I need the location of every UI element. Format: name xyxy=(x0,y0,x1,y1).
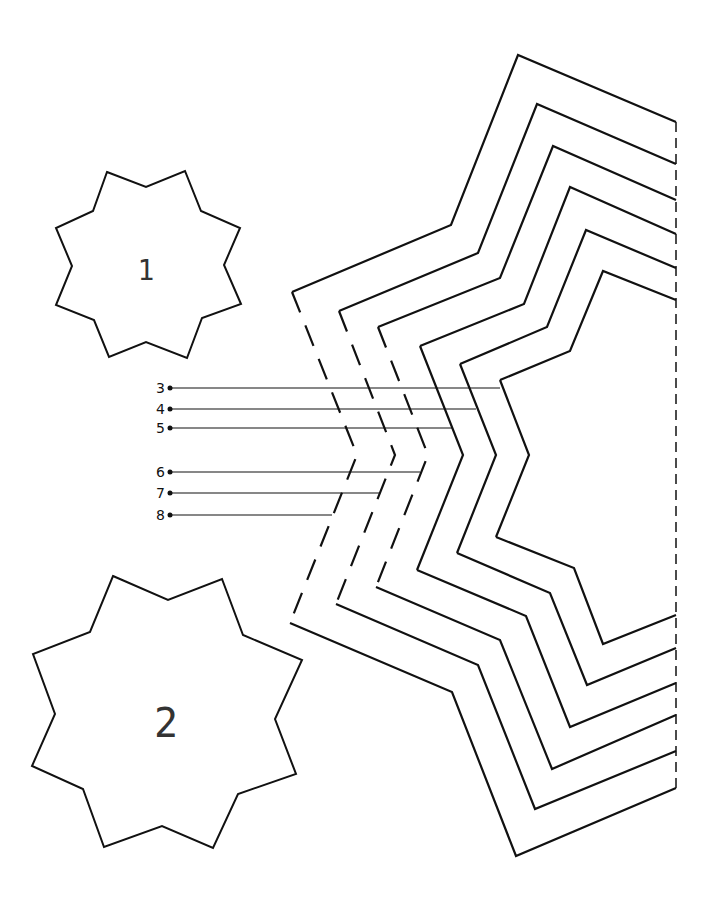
leader-dot-4 xyxy=(168,407,173,412)
leader-dot-3 xyxy=(168,386,173,391)
star-number-2: 2 xyxy=(154,700,178,746)
outline-label-8: 8 xyxy=(156,507,165,523)
outline-6-point xyxy=(376,327,428,587)
outline-3-lower xyxy=(496,537,676,644)
outline-label-6: 6 xyxy=(156,464,165,480)
outline-label-5: 5 xyxy=(156,420,165,436)
star-template-diagram: 12876543 xyxy=(0,0,716,913)
outline-8-point xyxy=(290,292,357,623)
outline-label-3: 3 xyxy=(156,380,165,396)
leader-dot-6 xyxy=(168,470,173,475)
leader-dot-7 xyxy=(168,491,173,496)
outline-7-point xyxy=(336,311,395,604)
star-number-1: 1 xyxy=(138,254,155,287)
outline-4-upper xyxy=(460,230,676,364)
outline-label-7: 7 xyxy=(156,485,165,501)
outline-3-upper xyxy=(500,271,676,380)
outline-label-4: 4 xyxy=(156,401,165,417)
outline-4-point xyxy=(457,364,496,553)
leader-dot-5 xyxy=(168,426,173,431)
leader-dot-8 xyxy=(168,513,173,518)
outline-4-lower xyxy=(457,553,676,685)
outline-5-point xyxy=(417,346,463,570)
outline-8-upper xyxy=(292,55,676,292)
outline-3-point xyxy=(496,380,529,537)
